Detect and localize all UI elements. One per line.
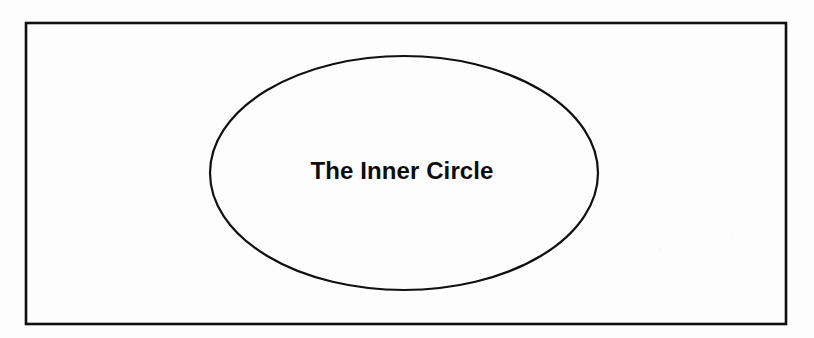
figure-canvas: The Inner Circle <box>0 0 814 338</box>
diagram-svg: The Inner Circle <box>0 0 814 338</box>
inner-circle-label: The Inner Circle <box>311 157 494 184</box>
